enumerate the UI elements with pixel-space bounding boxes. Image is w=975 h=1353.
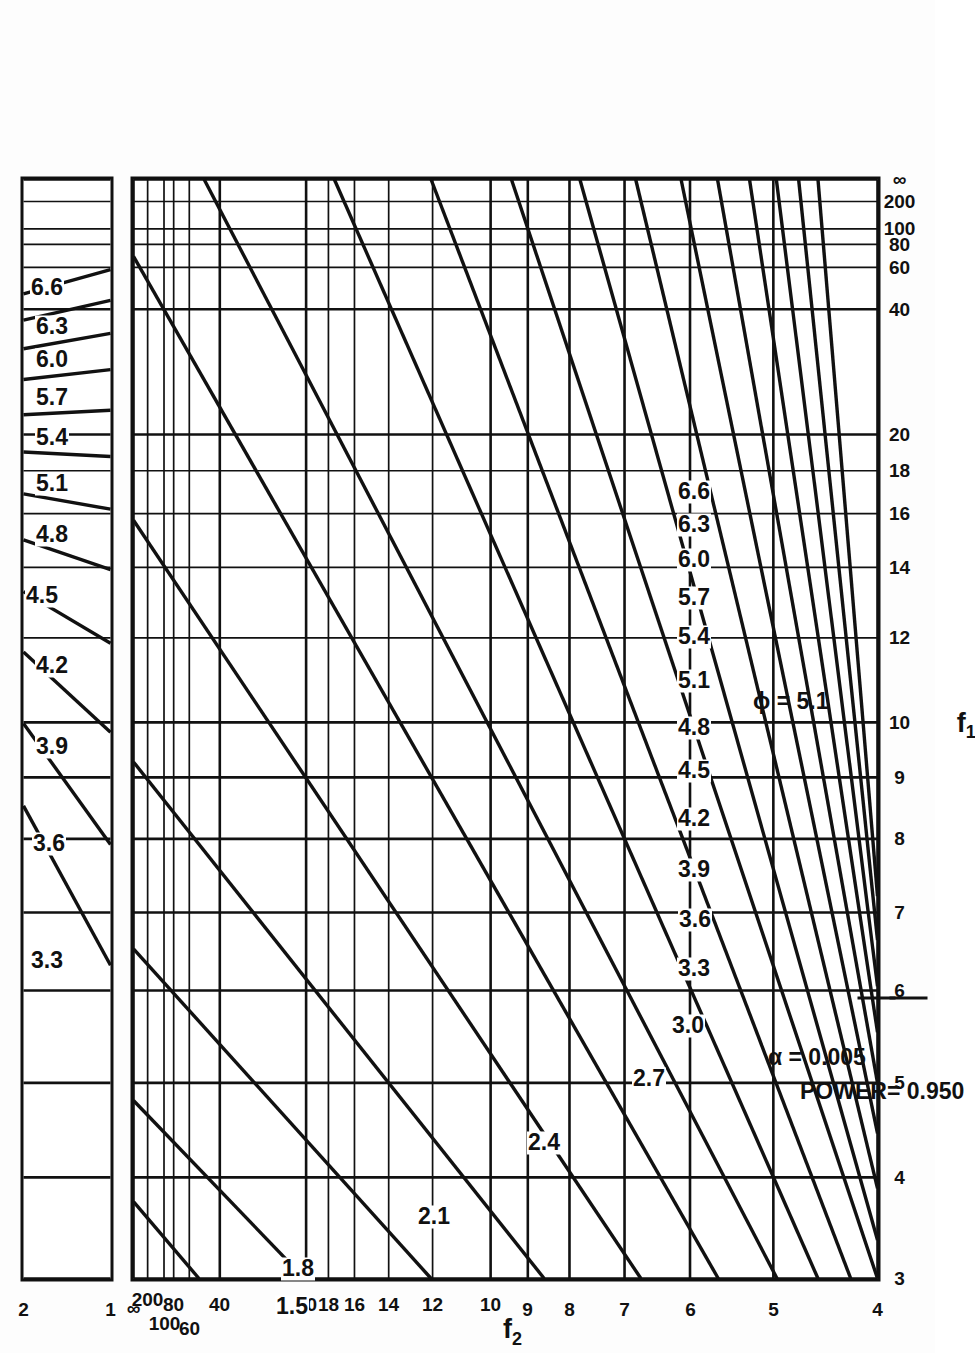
phi-curve-label: 6.6 (677, 480, 711, 503)
phi-curve-label: 4.2 (677, 807, 711, 830)
f2-tick-label: 40 (209, 1293, 230, 1315)
aux-tick-label: 2 (18, 1299, 29, 1321)
f1-axis-title: f1 (956, 707, 975, 742)
aux-phi-curve-label: 4.5 (24, 584, 58, 607)
f1-tick-label: 18 (888, 459, 909, 481)
f2-tick-label: ∞ (126, 1297, 140, 1319)
f2-tick-label: 12 (422, 1293, 443, 1315)
f1-tick-label: 14 (888, 556, 909, 578)
phi-curve-label: 6.0 (677, 548, 711, 571)
phi-curve-label: 2.4 (526, 1131, 560, 1154)
phi-curve (133, 948, 431, 1278)
f1-tick-label: 3 (894, 1267, 905, 1289)
f1-tick-label: 20 (888, 423, 909, 445)
aux-phi-curve-label: 6.3 (35, 315, 69, 338)
aux-phi-curve-label: 6.0 (35, 348, 69, 371)
phi-curve (717, 179, 877, 1082)
phi-curve-label: 3.3 (677, 957, 711, 980)
f2-tick-label: 18 (317, 1293, 338, 1315)
phi-curve-label: 2.1 (416, 1205, 450, 1228)
f2-tick-label: 100 (148, 1312, 180, 1334)
phi-curve-label: 6.3 (677, 513, 711, 536)
phi-curve (798, 179, 877, 940)
main-panel-plot (133, 179, 877, 1278)
f2-tick-label: 60 (178, 1317, 199, 1339)
phi-curve-label: 4.5 (677, 759, 711, 782)
f1-tick-label: 9 (894, 766, 905, 788)
f1-tick-label: 200 (883, 190, 915, 212)
aux-phi-curve-label: 4.8 (35, 523, 69, 546)
phi-curve-label: 3.0 (671, 1014, 705, 1037)
phi-curve (133, 520, 640, 1278)
phi-curve-label: 2.7 (632, 1067, 666, 1090)
aux-phi-curve (23, 452, 110, 456)
f2-tick-label: 14 (378, 1293, 399, 1315)
aux-phi-curve-label: 4.2 (35, 654, 69, 677)
alpha-annotation: α = 0.005 (767, 1046, 865, 1069)
f1-tick-label: 8 (894, 827, 905, 849)
aux-tick-label: 1 (105, 1299, 116, 1321)
f2-tick-label: 6 (684, 1299, 695, 1321)
power-annotation: POWER= 0.950 (799, 1080, 963, 1103)
phi-curve-label: 1.8 (281, 1257, 315, 1280)
aux-phi-curve-label: 3.3 (29, 949, 63, 972)
annotation-rule (889, 996, 927, 999)
phi-curve-label: 5.4 (677, 625, 711, 648)
aux-phi-curve-label: 6.6 (29, 276, 63, 299)
f2-tick-label: 4 (872, 1299, 883, 1321)
aux-phi-curve-label: 5.7 (35, 386, 69, 409)
aux-phi-curve-label: 3.6 (31, 832, 65, 855)
phi-marker-label: ϕ = 5.1 (752, 690, 827, 713)
f2-axis-title: f2 (502, 1314, 521, 1349)
f1-tick-label: 16 (888, 502, 909, 524)
phi-curve-label: 3.9 (677, 858, 711, 881)
f1-tick-label: ∞ (892, 168, 906, 190)
aux-panel-plot (23, 179, 110, 1278)
f2-tick-label: 10 (480, 1293, 501, 1315)
phi-curve-label: 3.6 (678, 908, 712, 931)
f1-tick-label: 7 (894, 901, 905, 923)
f1-tick-label: 12 (888, 626, 909, 648)
f1-tick-label: 100 (883, 217, 915, 239)
f1-tick-label: 4 (894, 1166, 905, 1188)
phi-curve-label: 5.1 (677, 669, 711, 692)
aux-power-panel (20, 176, 113, 1281)
f2-tick-label: 8 (564, 1299, 575, 1321)
aux-phi-curve-label: 5.4 (35, 426, 69, 449)
f2-tick-label: 5 (768, 1299, 779, 1321)
phi-curve-label: 1.5 (275, 1295, 309, 1318)
f2-tick-label: 16 (343, 1293, 364, 1315)
phi-curve-label: 4.8 (677, 716, 711, 739)
f1-tick-label: 60 (888, 256, 909, 278)
aux-phi-curve-label: 5.1 (35, 472, 69, 495)
aux-phi-curve (23, 805, 110, 964)
aux-phi-curve-label: 3.9 (35, 735, 69, 758)
phi-curve (431, 179, 851, 1278)
f1-tick-label: 40 (888, 298, 909, 320)
phi-curve-label: 5.7 (677, 586, 711, 609)
f2-tick-label: 9 (522, 1299, 533, 1321)
main-power-panel (130, 176, 880, 1281)
f2-tick-label: 7 (619, 1299, 630, 1321)
f1-tick-label: 10 (888, 711, 909, 733)
